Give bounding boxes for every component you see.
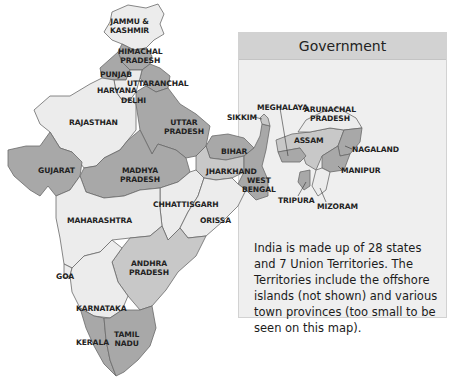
label-tripura: TRIPURA <box>278 196 315 205</box>
label-sikkim: SIKKIM <box>227 113 257 122</box>
label-nagaland: NAGALAND <box>352 145 399 154</box>
label-chhattisgarh: CHHATTISGARH <box>153 200 219 209</box>
label-arunachal-pradesh: ARUNACHALPRADESH <box>304 105 356 123</box>
label-orissa: ORISSA <box>200 216 231 225</box>
label-haryana: HARYANA <box>97 86 137 95</box>
label-bihar: BIHAR <box>221 147 247 156</box>
label-mizoram: MIZORAM <box>317 202 358 211</box>
label-maharashtra: MAHARASHTRA <box>67 216 132 225</box>
label-goa: GOA <box>56 272 74 281</box>
label-jharkhand: JHARKHAND <box>206 167 257 176</box>
label-rajasthan: RAJASTHAN <box>69 118 118 127</box>
label-kerala: KERALA <box>76 338 109 347</box>
region-tripura[interactable] <box>298 170 310 190</box>
label-tamil-nadu: TAMILNADU <box>114 330 139 348</box>
label-west-bengal: WESTBENGAL <box>242 176 276 194</box>
label-punjab: PUNJAB <box>100 70 132 79</box>
label-manipur: MANIPUR <box>341 166 381 175</box>
label-madhya-pradesh: MADHYAPRADESH <box>120 166 160 184</box>
label-assam: ASSAM <box>294 136 323 145</box>
label-gujarat: GUJARAT <box>38 166 75 175</box>
label-himachal-pradesh: HIMACHALPRADESH <box>118 47 162 65</box>
region-mizoram[interactable] <box>312 168 330 196</box>
label-delhi: DELHI <box>121 96 146 105</box>
region-sikkim[interactable] <box>260 114 270 126</box>
label-uttar-pradesh: UTTARPRADESH <box>164 118 204 136</box>
label-andhra-pradesh: ANDHRAPRADESH <box>129 259 169 277</box>
label-karnataka: KARNATAKA <box>76 304 127 313</box>
label-jammu-kashmir: JAMMU &KASHMIR <box>110 17 149 35</box>
label-meghalaya: MEGHALAYA <box>257 103 308 112</box>
india-states-map <box>0 0 452 387</box>
